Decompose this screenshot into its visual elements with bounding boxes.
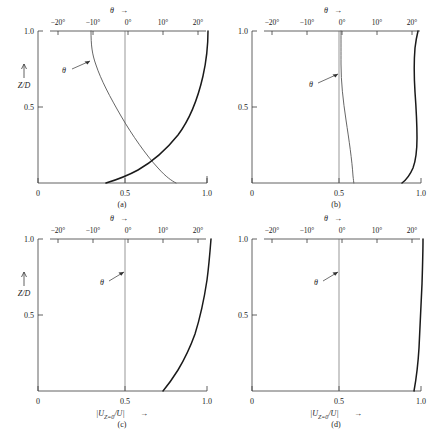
panel-a-frame-ticks [38, 31, 207, 183]
panel-c-theta-tick-label-3: 10° [158, 226, 169, 235]
panel-d-caption: (d) [331, 420, 341, 429]
panel-b-theta-tick-label-4: 20° [407, 18, 418, 27]
panel-c-frame [38, 239, 207, 391]
panel-a-y-axis-label: Z/D [18, 81, 31, 90]
panel-c-y-tick-label-1: 0.5 [24, 311, 34, 320]
panel-a-frame [38, 31, 207, 183]
panel-c-x-tick-label-1: 0.5 [120, 397, 130, 406]
panel-b-theta-annotation: θ [309, 80, 313, 89]
panel-d-theta-tick-label-1: −10° [300, 226, 315, 235]
panel-a-theta-tick-label-2: 0° [125, 18, 132, 27]
panel-a-theta-tick-label-4: 20° [193, 18, 204, 27]
panel-c-theta-tick-label-2: 0° [125, 226, 132, 235]
panel-c-y-axis-label: Z/D [18, 289, 31, 298]
panel-a-y-axis-arrow-icon [22, 64, 27, 78]
panel-a-caption: (a) [118, 200, 127, 209]
panel-b-x-tick-label-1: 0.5 [334, 189, 344, 198]
panel-b-theta-axis-label: θ [324, 6, 328, 15]
panel-d-theta-axis-arrow: → [334, 214, 342, 223]
panel-b-frame-ticks [252, 31, 421, 183]
panel-b-theta-curve [341, 31, 354, 183]
panel-c: θ → −20° −10° 0° 10° 20° Z/D 1.0 0.5 θ 0… [0, 210, 214, 420]
panel-d-x-axis-arrow: → [354, 409, 362, 418]
panel-d-velocity-curve [414, 239, 423, 391]
panel-a-y-tick-label-0: 1.0 [24, 27, 34, 36]
panel-b-frame [252, 31, 421, 183]
panel-d-x-axis-label: |UZ=0/U| [310, 409, 339, 420]
panel-b-velocity-curve [402, 31, 418, 183]
panel-c-theta-axis-ticks [58, 239, 198, 243]
panel-b-caption: (b) [331, 200, 341, 209]
panel-d-theta-annotation: θ [314, 278, 318, 287]
panel-a-y-tick-label-1: 0.5 [24, 103, 34, 112]
panel-a-theta-axis-arrow: → [120, 6, 128, 15]
panel-a-x-tick-label-0: 0 [36, 189, 40, 198]
panel-c-plot: θ → −20° −10° 0° 10° 20° Z/D 1.0 0.5 θ 0… [0, 210, 214, 431]
panel-c-y-tick-label-0: 1.0 [24, 235, 34, 244]
panel-b-theta-tick-label-3: 10° [372, 18, 383, 27]
panel-d: θ → −20° −10° 0° 10° 20° 1.0 0.5 θ 0 0.5… [214, 210, 428, 420]
panel-c-x-tick-label-2: 1.0 [202, 397, 212, 406]
panel-a-plot: θ → −20° −10° 0° 10° 20° Z/D 1.0 0.5 [0, 0, 214, 210]
panel-a-theta-tick-label-1: −10° [86, 18, 101, 27]
panel-c-x-axis-label: |UZ=0/U| [96, 409, 125, 420]
panel-c-frame-ticks [38, 239, 207, 391]
panel-b-theta-axis-ticks [272, 31, 412, 35]
panel-d-theta-tick-label-0: −20° [265, 226, 280, 235]
panel-c-theta-arrow-icon [119, 272, 125, 276]
panel-b-theta-tick-label-2: 0° [339, 18, 346, 27]
panel-c-x-tick-label-0: 0 [36, 397, 40, 406]
panel-c-caption: (c) [118, 420, 127, 429]
panel-c-x-axis-arrow: → [140, 409, 148, 418]
panel-b-theta-tick-label-1: −10° [300, 18, 315, 27]
panel-d-x-tick-label-1: 0.5 [334, 397, 344, 406]
panel-b-y-tick-label-0: 1.0 [238, 27, 248, 36]
panel-d-plot: θ → −20° −10° 0° 10° 20° 1.0 0.5 θ 0 0.5… [214, 210, 428, 431]
panel-a-x-tick-label-2: 1.0 [202, 189, 212, 198]
panel-b-plot: θ → −20° −10° 0° 10° 20° 1.0 0.5 θ 0 0.5… [214, 0, 428, 210]
figure-four-panel-velocity-profiles: θ → −20° −10° 0° 10° 20° Z/D 1.0 0.5 [0, 0, 429, 431]
panel-a-theta-curve [91, 31, 176, 183]
panel-d-y-tick-label-0: 1.0 [238, 235, 248, 244]
panel-c-theta-tick-label-0: −20° [51, 226, 66, 235]
panel-a-theta-annotation: θ [62, 66, 66, 75]
panel-d-y-tick-label-1: 0.5 [238, 311, 248, 320]
panel-b-theta-tick-label-0: −20° [265, 18, 280, 27]
panel-b-theta-axis-arrow: → [334, 6, 342, 15]
panel-b-x-tick-label-0: 0 [250, 189, 254, 198]
panel-a: θ → −20° −10° 0° 10° 20° Z/D 1.0 0.5 [0, 0, 214, 210]
panel-b-y-tick-label-1: 0.5 [238, 103, 248, 112]
panel-d-theta-tick-label-3: 10° [372, 226, 383, 235]
panel-b: θ → −20° −10° 0° 10° 20° 1.0 0.5 θ 0 0.5… [214, 0, 428, 210]
panel-a-theta-tick-label-0: −20° [51, 18, 66, 27]
panel-d-theta-axis-ticks [272, 239, 412, 243]
panel-c-theta-axis-label: θ [110, 214, 114, 223]
panel-a-theta-axis-label: θ [110, 6, 114, 15]
panel-a-x-tick-label-1: 0.5 [120, 189, 130, 198]
panel-d-theta-tick-label-2: 0° [339, 226, 346, 235]
panel-a-theta-axis-ticks [58, 31, 198, 35]
panel-d-frame [252, 239, 421, 391]
panel-d-x-tick-label-0: 0 [250, 397, 254, 406]
panel-d-theta-axis-label: θ [324, 214, 328, 223]
panel-b-x-tick-label-2: 1.0 [416, 189, 426, 198]
panel-c-theta-tick-label-1: −10° [86, 226, 101, 235]
panel-c-theta-tick-label-4: 20° [193, 226, 204, 235]
panel-c-velocity-curve [163, 239, 211, 391]
panel-d-theta-arrow-icon [333, 272, 339, 276]
panel-d-theta-tick-label-4: 20° [407, 226, 418, 235]
panel-c-theta-axis-arrow: → [120, 214, 128, 223]
panel-a-theta-tick-label-3: 10° [158, 18, 169, 27]
panel-a-velocity-curve [106, 31, 208, 183]
panel-d-x-tick-label-2: 1.0 [416, 397, 426, 406]
panel-c-theta-annotation: θ [100, 278, 104, 287]
panel-d-frame-ticks [252, 239, 421, 391]
panel-c-y-axis-arrow-icon [22, 272, 27, 286]
